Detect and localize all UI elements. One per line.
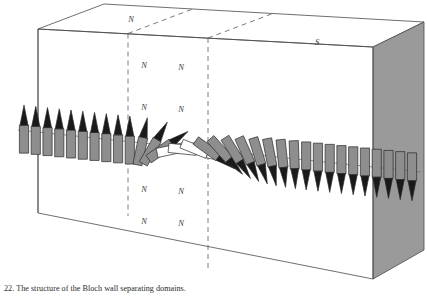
bloch-wall-figure: NSNNNNNNNN — [0, 0, 427, 296]
arrow-shaft — [372, 149, 381, 177]
arrow-head — [20, 105, 28, 125]
arrow-shaft — [313, 143, 322, 171]
arrow-shaft — [125, 136, 134, 164]
arrow-shaft — [337, 146, 346, 174]
arrow-shaft — [78, 131, 87, 159]
arrow-shaft — [384, 150, 393, 178]
figure-container: NSNNNNNNNN 22. The structure of the Bloc… — [0, 0, 427, 296]
arrow-shaft — [302, 142, 311, 170]
figure-caption: 22. The structure of the Bloch wall sepa… — [4, 284, 424, 294]
spin-arrow — [19, 105, 28, 153]
arrow-shaft — [349, 147, 358, 175]
arrow-shaft — [396, 152, 405, 180]
arrow-shaft — [66, 130, 75, 158]
arrow-shaft — [289, 141, 299, 169]
arrow-shaft — [90, 132, 99, 160]
arrow-shaft — [19, 125, 28, 153]
arrow-shaft — [360, 148, 369, 176]
arrow-shaft — [407, 153, 416, 181]
arrow-shaft — [102, 134, 111, 162]
arrow-shaft — [55, 129, 64, 157]
arrow-shaft — [31, 126, 40, 154]
arrow-shaft — [43, 128, 52, 156]
caption-number: 22. — [4, 284, 14, 293]
arrow-shaft — [113, 135, 122, 163]
arrow-shaft — [325, 144, 334, 172]
caption-text: The structure of the Bloch wall separati… — [16, 284, 186, 293]
